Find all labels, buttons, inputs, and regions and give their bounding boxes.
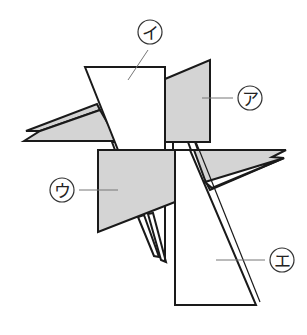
label-a: ア xyxy=(242,89,259,109)
shape-u xyxy=(98,150,175,232)
label-e: エ xyxy=(274,251,291,271)
connector-mid xyxy=(165,142,173,150)
label-i: イ xyxy=(142,23,159,43)
shape-a xyxy=(165,60,210,142)
label-u: ウ xyxy=(54,181,71,201)
shapes-diagram: イ ア ウ エ xyxy=(0,0,307,335)
